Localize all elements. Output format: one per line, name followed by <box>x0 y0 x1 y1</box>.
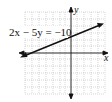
equation-label: 2x − 5y = −10 <box>9 26 72 38</box>
coordinate-graph: y x 2x − 5y = −10 <box>0 0 112 102</box>
x-axis-label: x <box>103 52 109 63</box>
y-axis-label: y <box>73 4 79 15</box>
